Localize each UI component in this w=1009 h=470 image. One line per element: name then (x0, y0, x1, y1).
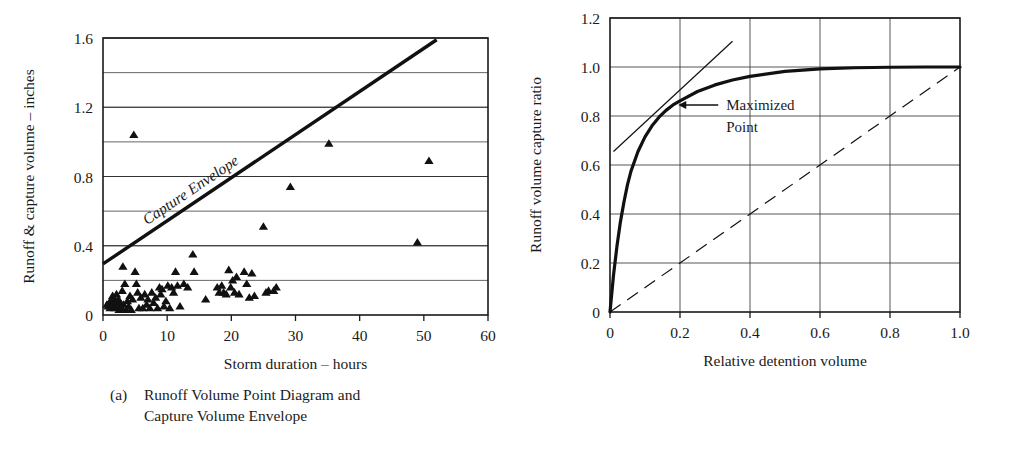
scatter-marker (188, 250, 197, 258)
y-tick-label-b: 1.2 (581, 10, 600, 27)
x-axis-label-a: Storm duration – hours (224, 355, 367, 372)
y-tick-label-a: 0.4 (74, 238, 94, 255)
y-tick-label-b: 0.6 (581, 157, 601, 174)
scatter-marker (175, 302, 184, 310)
capture-envelope-label: Capture Envelope (139, 151, 241, 228)
chart-b-line: 00.20.40.60.81.000.20.40.60.81.01.2Relat… (505, 0, 1009, 380)
y-tick-label-b: 0.4 (581, 206, 601, 223)
scatter-marker (130, 267, 139, 275)
y-tick-label-a: 1.2 (74, 99, 93, 116)
x-tick-label-a: 20 (224, 327, 240, 344)
caption-a-line2: Capture Volume Envelope (144, 405, 450, 426)
scatter-marker (161, 297, 170, 305)
scatter-marker (413, 238, 422, 246)
y-axis-label-a: Runoff & capture volume – inches (20, 69, 37, 284)
scatter-marker (224, 266, 233, 274)
scatter-marker (250, 292, 259, 300)
annotation-line2: Point (726, 119, 759, 135)
y-tick-label-b: 1.0 (581, 59, 601, 76)
x-tick-label-a: 30 (288, 327, 304, 344)
scatter-marker (118, 262, 127, 270)
x-tick-label-a: 50 (416, 327, 432, 344)
scatter-marker (324, 139, 333, 147)
scatter-marker (259, 222, 268, 230)
scatter-marker (217, 281, 226, 289)
x-tick-label-b: 0.2 (670, 324, 689, 341)
grid-lines-b (610, 18, 960, 312)
series-tangent-line (614, 41, 733, 151)
x-tick-label-a: 60 (480, 327, 496, 344)
scatter-marker (240, 267, 249, 275)
x-axis-ticks-b: 00.20.40.60.81.0 (606, 312, 970, 341)
x-tick-label-b: 1.0 (950, 324, 970, 341)
caption-a-line1: Runoff Volume Point Diagram and (144, 386, 360, 403)
x-tick-label-a: 40 (352, 327, 368, 344)
annotation-line1: Maximized (726, 97, 795, 113)
scatter-marker (118, 286, 127, 294)
scatter-marker (286, 182, 295, 190)
x-tick-label-a: 10 (159, 327, 175, 344)
scatter-marker (247, 269, 256, 277)
caption-a-tag: (a) (110, 384, 144, 405)
scatter-marker (189, 267, 198, 275)
panel-a-runoff-volume-point-diagram: 010203040506000.40.81.21.6Storm duration… (0, 0, 505, 470)
y-tick-label-b: 0 (592, 304, 600, 321)
capture-envelope-line (103, 40, 437, 264)
x-tick-label-a: 0 (99, 327, 107, 344)
x-tick-label-b: 0.4 (740, 324, 760, 341)
x-axis-ticks-a: 0102030405060 (99, 315, 496, 344)
scatter-marker (424, 157, 433, 165)
y-tick-label-b: 0.2 (581, 255, 600, 272)
y-axis-ticks-a: 00.40.81.21.6 (74, 30, 94, 324)
y-tick-label-b: 0.8 (581, 108, 601, 125)
y-tick-label-a: 0 (85, 307, 93, 324)
scatter-marker (201, 295, 210, 303)
scatter-marker (171, 267, 180, 275)
x-tick-label-b: 0 (606, 324, 614, 341)
chart-a-scatter: 010203040506000.40.81.21.6Storm duration… (0, 0, 505, 380)
caption-a: (a)Runoff Volume Point Diagram andCaptur… (110, 384, 450, 426)
scatter-marker (129, 131, 138, 139)
figure-container: 010203040506000.40.81.21.6Storm duration… (0, 0, 1009, 470)
scatter-marker (272, 283, 281, 291)
x-axis-label-b: Relative detention volume (703, 352, 867, 369)
y-tick-label-a: 0.8 (74, 169, 94, 186)
scatter-marker (232, 273, 241, 281)
y-axis-ticks-b: 00.20.40.60.81.01.2 (581, 10, 601, 321)
panel-b-maximizing-capture-volume: 00.20.40.60.81.000.20.40.60.81.01.2Relat… (505, 0, 1009, 470)
y-axis-label-b: Runoff volume capture ratio (527, 77, 544, 253)
y-tick-label-a: 1.6 (74, 30, 94, 47)
x-tick-label-b: 0.8 (880, 324, 900, 341)
x-tick-label-b: 0.6 (810, 324, 830, 341)
